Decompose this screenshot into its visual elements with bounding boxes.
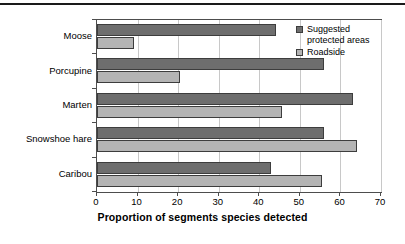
legend-swatch-icon [296, 49, 303, 56]
bar-group [97, 123, 381, 157]
bar [97, 93, 353, 105]
chart-legend: Suggested protected areasRoadside [293, 22, 375, 62]
legend-label: Roadside [307, 47, 345, 58]
legend-swatch-icon [296, 26, 303, 33]
x-tick-label-40: 40 [243, 196, 273, 208]
bar [97, 175, 322, 187]
category-axis-labels: MoosePorcupineMartenSnowshoe hareCaribou [0, 19, 92, 191]
bar [97, 58, 324, 70]
bar [97, 127, 324, 139]
bar [97, 71, 180, 83]
x-tick-label-30: 30 [203, 196, 233, 208]
bar-group [97, 89, 381, 123]
bar [97, 140, 357, 152]
bar-chart-figure: MoosePorcupineMartenSnowshoe hareCaribou… [0, 0, 405, 244]
bar [97, 24, 276, 36]
x-tick-label-50: 50 [284, 196, 314, 208]
category-label: Moose [0, 31, 92, 41]
category-label: Marten [0, 100, 92, 110]
category-label: Snowshoe hare [0, 134, 92, 144]
x-axis-title: Proportion of segments species detected [0, 211, 405, 223]
bar [97, 162, 271, 174]
x-tick-label-70: 70 [365, 196, 395, 208]
legend-label: Suggested protected areas [307, 24, 373, 45]
category-label: Porcupine [0, 66, 92, 76]
x-tick-label-20: 20 [162, 196, 192, 208]
gridline-70 [381, 20, 382, 192]
x-tick-label-0: 0 [81, 196, 111, 208]
x-tick-label-10: 10 [122, 196, 152, 208]
bar [97, 106, 282, 118]
x-axis-tick-labels: 010203040506070 [96, 196, 380, 209]
legend-item: Roadside [296, 47, 373, 58]
legend-item: Suggested protected areas [296, 24, 373, 45]
category-label: Caribou [0, 169, 92, 179]
bar [97, 37, 134, 49]
bar-group [97, 158, 381, 192]
x-tick-label-60: 60 [324, 196, 354, 208]
